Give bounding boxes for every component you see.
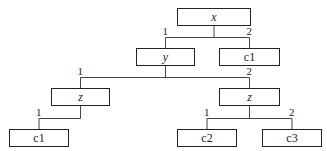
leaf-node-c1: c1 (219, 48, 280, 66)
edge-label: 1 (163, 26, 169, 37)
edge-label: 1 (78, 66, 84, 77)
leaf-node-c1: c1 (9, 129, 69, 147)
edge-label: 1 (204, 107, 210, 118)
edge-label: 2 (289, 107, 295, 118)
variable-node-y: y (136, 48, 195, 66)
variable-node-z: z (219, 88, 280, 106)
leaf-node-c2: c2 (177, 129, 237, 147)
edge-label: 2 (247, 66, 253, 77)
edge-label: 1 (36, 107, 42, 118)
variable-node-z: z (51, 88, 110, 106)
edge-label: 2 (247, 26, 253, 37)
leaf-node-c3: c3 (262, 129, 322, 147)
variable-node-x: x (177, 8, 251, 26)
